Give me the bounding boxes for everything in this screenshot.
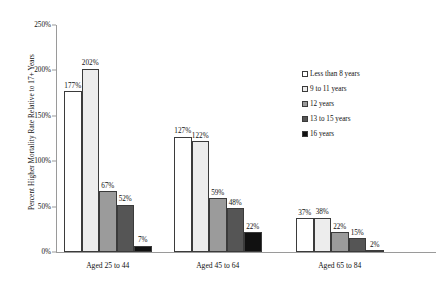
y-axis-title: Percent Higher Mortality Rate Relative t… — [28, 12, 36, 252]
bar[interactable] — [64, 91, 82, 252]
bar[interactable] — [99, 191, 117, 252]
bar[interactable] — [117, 205, 135, 252]
bar-slot: 22% — [244, 25, 262, 252]
bar-value-label: 177% — [64, 82, 81, 90]
legend-swatch-icon — [302, 116, 308, 122]
x-axis-line — [56, 252, 436, 253]
bar-groups: 177%202%67%52%7%Aged 25 to 44127%122%59%… — [56, 25, 436, 252]
bar[interactable] — [82, 69, 100, 252]
bar-group: 177%202%67%52%7%Aged 25 to 44 — [64, 25, 152, 252]
legend-swatch-icon — [302, 86, 308, 92]
bar-value-label: 202% — [82, 59, 99, 67]
legend-item[interactable]: 12 years — [302, 96, 360, 111]
bar-slot: 127% — [174, 25, 192, 252]
bar[interactable] — [366, 250, 384, 252]
legend-swatch-icon — [302, 71, 308, 77]
legend-swatch-icon — [302, 131, 308, 137]
legend-item-label: Less than 8 years — [310, 70, 360, 78]
bar-slot: 67% — [99, 25, 117, 252]
bar-value-label: 127% — [174, 127, 191, 135]
bar[interactable] — [174, 137, 192, 252]
y-axis-tick-label: 150% — [34, 112, 56, 120]
bar-slot: 7% — [134, 25, 152, 252]
x-axis-group-label: Aged 45 to 64 — [174, 261, 262, 270]
bar[interactable] — [134, 246, 152, 252]
bar-slot: 59% — [209, 25, 227, 252]
bar[interactable] — [349, 238, 367, 252]
legend-item[interactable]: 9 to 11 years — [302, 81, 360, 96]
y-axis-tick-label: 100% — [34, 157, 56, 165]
bar-slot: 48% — [227, 25, 245, 252]
x-axis-group-label: Aged 25 to 44 — [64, 261, 152, 270]
bar[interactable] — [331, 232, 349, 252]
bar-value-label: 15% — [351, 229, 364, 237]
legend-swatch-icon — [302, 101, 308, 107]
bar-slot: 52% — [117, 25, 135, 252]
chart-legend: Less than 8 years9 to 11 years12 years13… — [302, 66, 360, 141]
bar[interactable] — [314, 218, 332, 253]
bar-slot: 122% — [192, 25, 210, 252]
bar[interactable] — [244, 232, 262, 252]
legend-item-label: 13 to 15 years — [310, 115, 351, 123]
bar-value-label: 52% — [119, 195, 132, 203]
plot-area: 0%50%100%150%200%250% 177%202%67%52%7%Ag… — [56, 25, 436, 252]
legend-item[interactable]: Less than 8 years — [302, 66, 360, 81]
bar-value-label: 48% — [229, 199, 242, 207]
bar[interactable] — [192, 141, 210, 252]
bar-value-label: 22% — [333, 223, 346, 231]
bar-slot: 2% — [366, 25, 384, 252]
legend-item[interactable]: 16 years — [302, 126, 360, 141]
y-axis-tick-label: 250% — [34, 21, 56, 29]
bar-value-label: 122% — [192, 132, 209, 140]
y-axis-tick-label: 200% — [34, 66, 56, 74]
bar-value-label: 67% — [101, 182, 114, 190]
legend-item-label: 16 years — [310, 130, 334, 138]
y-axis-tick-label: 0% — [41, 248, 56, 256]
bar-value-label: 2% — [370, 241, 380, 249]
bar-slot: 202% — [82, 25, 100, 252]
legend-item-label: 12 years — [310, 100, 334, 108]
bar[interactable] — [227, 208, 245, 252]
bar-group: 127%122%59%48%22%Aged 45 to 64 — [174, 25, 262, 252]
bar[interactable] — [209, 198, 227, 252]
y-axis-tick-label: 50% — [38, 203, 56, 211]
x-axis-group-label: Aged 65 to 84 — [296, 261, 384, 270]
bar-value-label: 37% — [298, 209, 311, 217]
bar-chart: Percent Higher Mortality Rate Relative t… — [0, 0, 446, 284]
legend-item[interactable]: 13 to 15 years — [302, 111, 360, 126]
bar[interactable] — [296, 218, 314, 252]
bar-slot: 177% — [64, 25, 82, 252]
bar-value-label: 59% — [211, 189, 224, 197]
bar-value-label: 38% — [316, 208, 329, 216]
bar-value-label: 7% — [138, 236, 148, 244]
legend-item-label: 9 to 11 years — [310, 85, 347, 93]
bar-value-label: 22% — [246, 223, 259, 231]
